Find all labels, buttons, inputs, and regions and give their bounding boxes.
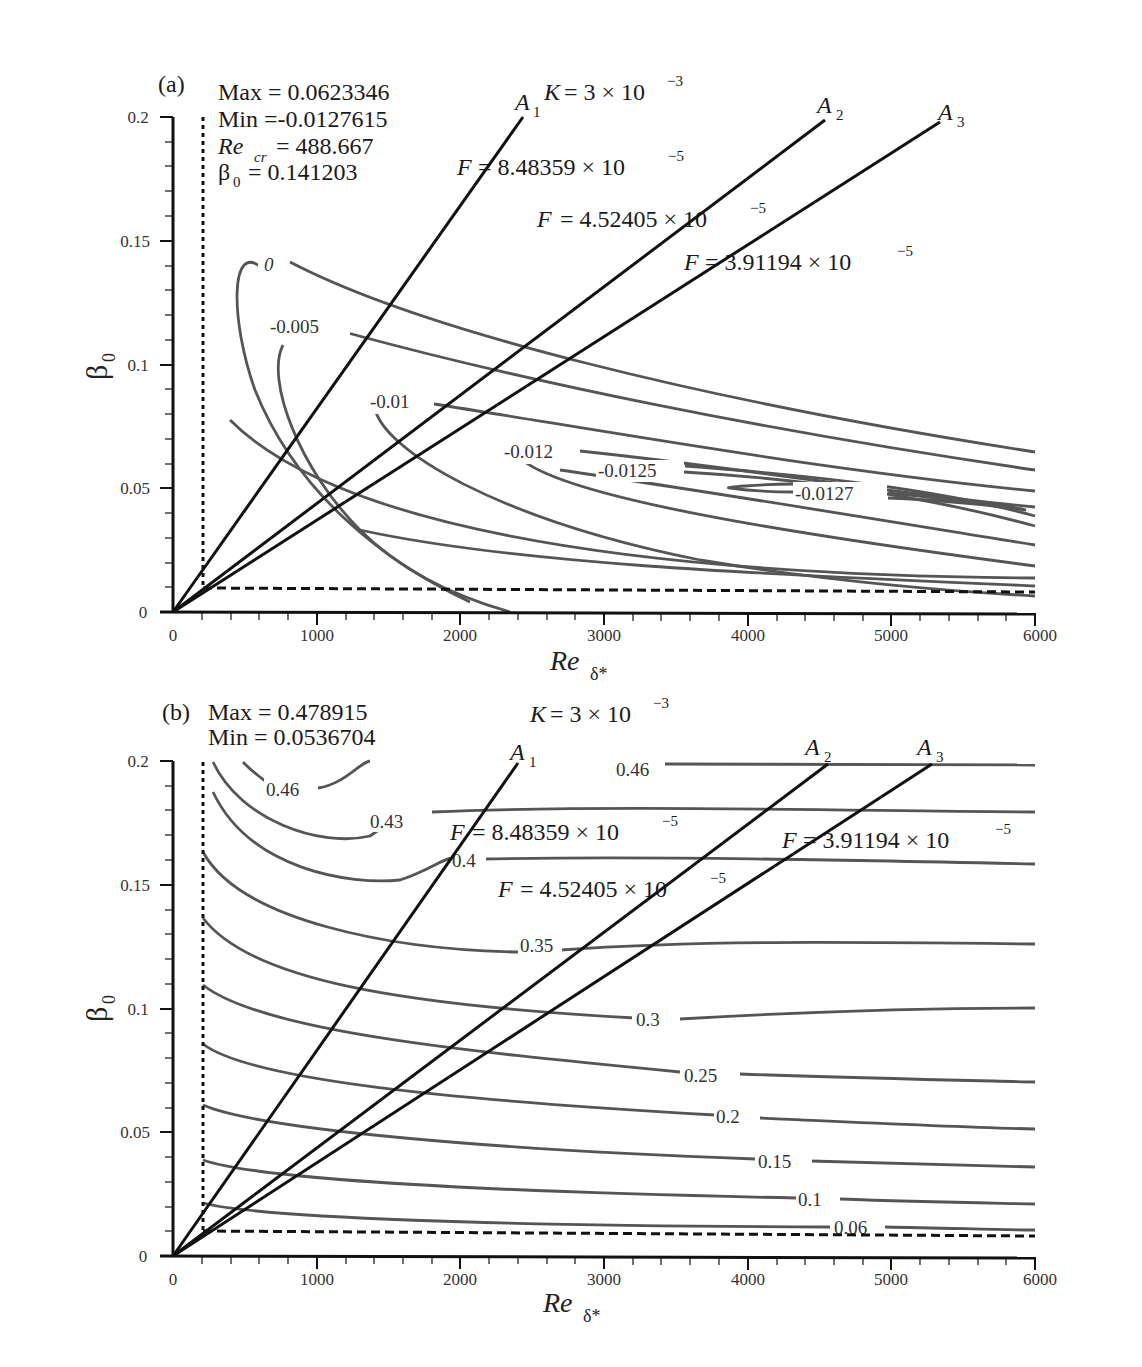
- svg-text:= 4.52405 × 10: = 4.52405 × 10: [560, 206, 707, 232]
- svg-text:Re: Re: [549, 645, 580, 676]
- svg-text:3: 3: [957, 114, 965, 130]
- svg-text:2000: 2000: [443, 626, 477, 645]
- ray-b2-label: A 2: [803, 734, 832, 765]
- svg-text:0.05: 0.05: [120, 1123, 150, 1142]
- svg-text:F: F: [456, 154, 472, 180]
- svg-text:0.2: 0.2: [716, 1106, 740, 1127]
- svg-text:0.46: 0.46: [616, 759, 649, 780]
- svg-text:3: 3: [936, 749, 944, 765]
- svg-text:= 3 × 10: = 3 × 10: [564, 79, 645, 105]
- svg-text:6000: 6000: [1023, 1270, 1057, 1289]
- x-tick-labels-a: 0 1000 2000 3000 4000 5000 6000: [169, 626, 1057, 645]
- panel-a-k-label: K = 3 × 10 −3: [543, 73, 683, 105]
- svg-text:4000: 4000: [731, 626, 765, 645]
- svg-text:1: 1: [529, 754, 537, 770]
- panel-b-max: Max = 0.478915: [208, 699, 368, 725]
- svg-text:-0.0125: -0.0125: [598, 460, 657, 481]
- svg-text:β: β: [218, 159, 230, 185]
- svg-text:δ*: δ*: [590, 664, 607, 684]
- svg-text:0: 0: [99, 995, 119, 1004]
- contour-046-right: [318, 761, 370, 788]
- svg-text:β: β: [80, 1007, 113, 1022]
- ray-a3-label: A 3: [936, 99, 965, 130]
- svg-text:1: 1: [533, 104, 541, 120]
- svg-text:Re: Re: [542, 1287, 573, 1318]
- x-axis-a: [160, 612, 1035, 614]
- f-label-a2: F = 4.52405 × 10 −5: [536, 200, 766, 232]
- svg-text:4000: 4000: [731, 1270, 765, 1289]
- svg-text:0.43: 0.43: [370, 811, 403, 832]
- svg-text:-0.012: -0.012: [504, 441, 553, 462]
- svg-text:0.05: 0.05: [120, 479, 150, 498]
- contour-02: [203, 1044, 1035, 1129]
- panel-b-k-label: K = 3 × 10 −3: [529, 695, 669, 727]
- y-axis-title-a: β 0: [80, 353, 119, 380]
- svg-text:-0.0127: -0.0127: [795, 483, 854, 504]
- ray-b3-label: A 3: [915, 734, 944, 765]
- svg-text:0: 0: [169, 626, 178, 645]
- svg-text:0.1: 0.1: [798, 1189, 822, 1210]
- svg-text:−3: −3: [667, 73, 683, 89]
- f-label-b1: F = 8.48359 × 10 −5: [448, 813, 688, 845]
- svg-text:0: 0: [264, 254, 274, 275]
- svg-text:0.15: 0.15: [120, 232, 150, 251]
- svg-text:= 3.91194 × 10: = 3.91194 × 10: [803, 827, 949, 853]
- svg-text:-0.01: -0.01: [370, 391, 410, 412]
- svg-text:0.1: 0.1: [127, 356, 148, 375]
- svg-text:0: 0: [169, 1270, 178, 1289]
- x-axis-title-a: Re δ*: [549, 645, 607, 684]
- f-label-b2: F = 4.52405 × 10 −5: [497, 870, 726, 902]
- panel-a: (a) Max = 0.0623346 Min =-0.0127615 Re c…: [80, 71, 1057, 684]
- svg-text:5000: 5000: [874, 626, 908, 645]
- svg-text:= 4.52405 × 10: = 4.52405 × 10: [520, 876, 667, 902]
- contour-015: [203, 1105, 1035, 1167]
- svg-text:A: A: [508, 739, 525, 765]
- svg-text:A: A: [915, 734, 932, 760]
- svg-text:= 3 × 10: = 3 × 10: [550, 701, 631, 727]
- contour-035: [203, 852, 1035, 952]
- svg-text:= 8.48359 × 10: = 8.48359 × 10: [478, 154, 625, 180]
- svg-text:0.2: 0.2: [127, 108, 148, 127]
- svg-text:0: 0: [139, 603, 148, 622]
- svg-text:−5: −5: [668, 148, 684, 164]
- svg-text:5000: 5000: [874, 1270, 908, 1289]
- svg-text:2000: 2000: [443, 1270, 477, 1289]
- y-tick-labels-b: 0 0.05 0.1 0.15 0.2: [120, 752, 150, 1266]
- svg-text:δ*: δ*: [583, 1306, 600, 1326]
- svg-text:2: 2: [836, 107, 844, 123]
- contour-01: [203, 1160, 1035, 1204]
- ray-a1-label: A 1: [513, 89, 541, 120]
- panel-a-contours: [230, 262, 1035, 612]
- svg-text:A: A: [803, 734, 820, 760]
- svg-text:6000: 6000: [1023, 626, 1057, 645]
- svg-text:= 0.141203: = 0.141203: [248, 159, 358, 185]
- y-axis-title-b: β 0: [80, 995, 119, 1022]
- x-axis-title-b: Re δ*: [542, 1287, 600, 1326]
- svg-text:0.25: 0.25: [684, 1065, 717, 1086]
- f-label-b3: F = 3.91194 × 10 −5: [781, 821, 1011, 853]
- panel-a-beta0: β 0 = 0.141203: [218, 159, 358, 190]
- dashed-horizontal-line-b: [203, 1231, 1035, 1236]
- svg-text:F: F: [683, 249, 699, 275]
- svg-text:−5: −5: [710, 870, 726, 886]
- svg-text:= 8.48359 × 10: = 8.48359 × 10: [472, 819, 619, 845]
- svg-text:Re: Re: [217, 133, 244, 159]
- svg-text:= 3.91194 × 10: = 3.91194 × 10: [705, 249, 851, 275]
- svg-text:0.3: 0.3: [636, 1009, 660, 1030]
- svg-text:F: F: [781, 827, 797, 853]
- ray-a2-label: A 2: [815, 92, 844, 123]
- contour-006: [203, 1203, 1035, 1230]
- panel-a-max: Max = 0.0623346: [218, 79, 390, 105]
- ray-b1: [173, 763, 518, 1256]
- svg-text:= 488.667: = 488.667: [276, 133, 374, 159]
- panel-a-min: Min =-0.0127615: [218, 106, 388, 132]
- f-label-a3: F = 3.91194 × 10 −5: [683, 243, 913, 275]
- svg-text:0: 0: [99, 353, 119, 362]
- x-axis-b: [160, 1256, 1035, 1258]
- contour-figure: (a) Max = 0.0623346 Min =-0.0127615 Re c…: [0, 0, 1142, 1367]
- ray-a3: [173, 122, 940, 612]
- dashed-horizontal-line: [203, 588, 1035, 592]
- svg-text:−5: −5: [897, 243, 913, 259]
- svg-text:F: F: [536, 206, 552, 232]
- x-tick-labels-b: 0 1000 2000 3000 4000 5000 6000: [169, 1270, 1057, 1289]
